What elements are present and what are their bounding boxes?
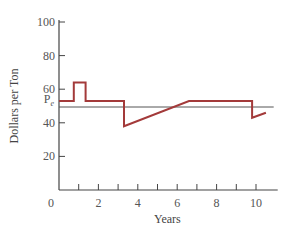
- x-tick-label: 4: [135, 196, 141, 210]
- y-tick-label: 80: [43, 49, 55, 63]
- x-tick-label: 8: [214, 196, 220, 210]
- x-tick-label: 0: [48, 196, 54, 210]
- x-tick-label: 6: [174, 196, 180, 210]
- y-tick-label: 40: [43, 116, 55, 130]
- x-axis-title: Years: [154, 212, 181, 226]
- x-tick-label: 10: [250, 196, 262, 210]
- price-series-line: [59, 83, 266, 127]
- y-tick-label: 100: [37, 15, 55, 29]
- chart: 024681020406080100PeYearsDollars per Ton: [0, 0, 291, 237]
- y-axis-title: Dollars per Ton: [7, 69, 21, 144]
- y-tick-label: 20: [43, 149, 55, 163]
- x-tick-label: 2: [95, 196, 101, 210]
